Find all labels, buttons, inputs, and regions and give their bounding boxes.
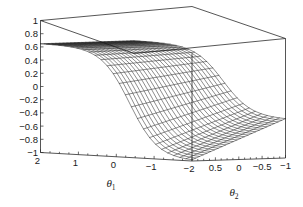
- tick-label: −1: [280, 160, 291, 171]
- theta1-axis-title: θ1: [106, 177, 115, 192]
- theta1-axis-tick-labels: 210−1−2: [35, 155, 195, 175]
- theta1-axis-ticks: [41, 150, 193, 162]
- tick-label: −0.2: [19, 94, 38, 105]
- z-axis-tick-labels: 10.80.60.40.20−0.2−0.4−0.6−0.8−1: [19, 15, 38, 158]
- tick-label: 1: [73, 157, 78, 168]
- svg-text:θ1: θ1: [106, 177, 115, 192]
- axes-box-frame: [41, 7, 286, 162]
- tick-label: 0: [33, 81, 38, 92]
- tick-label: −0.8: [19, 134, 38, 145]
- tick-label: −0.6: [19, 121, 38, 132]
- tick-label: 0.2: [25, 68, 38, 79]
- tick-label: 0.6: [25, 41, 38, 52]
- theta2-axis-tick-labels: 0.50−0.5−1: [209, 160, 291, 173]
- tick-label: 0.8: [25, 28, 38, 39]
- tick-label: 0.5: [209, 162, 222, 173]
- tick-label: 0.4: [25, 55, 38, 66]
- tick-label: 0: [111, 159, 116, 170]
- surface-plot-figure: 10.80.60.40.20−0.2−0.4−0.6−0.8−1 210−1−2…: [0, 0, 303, 207]
- wireframe-mesh-surface: [41, 41, 286, 160]
- plot-canvas: 10.80.60.40.20−0.2−0.4−0.6−0.8−1 210−1−2…: [0, 0, 303, 207]
- tick-label: 2: [35, 155, 40, 166]
- theta2-axis-ticks: [198, 155, 286, 161]
- tick-label: −1: [146, 161, 157, 172]
- z-axis-ticks: [41, 21, 44, 153]
- tick-label: −0.5: [253, 161, 272, 172]
- tick-label: 0: [236, 162, 241, 173]
- svg-text:θ2: θ2: [229, 186, 238, 201]
- tick-label: 1: [33, 15, 38, 26]
- tick-label: −0.4: [19, 107, 38, 118]
- theta2-axis-title: θ2: [229, 186, 238, 201]
- tick-label: −2: [184, 163, 195, 174]
